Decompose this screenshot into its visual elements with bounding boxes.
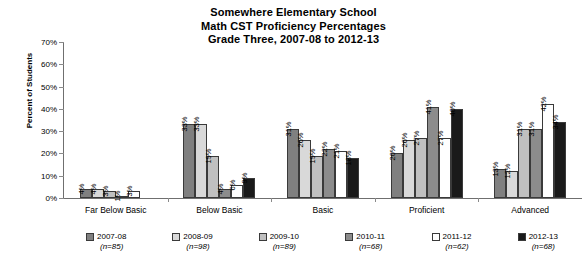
legend-label: 2007-08 xyxy=(97,232,126,242)
bar-slot: 31% xyxy=(518,42,530,198)
bar-slot xyxy=(140,42,152,198)
bar-slot: 4% xyxy=(219,42,231,198)
bar[interactable]: 27% xyxy=(415,138,427,198)
bar-slot: 22% xyxy=(323,42,335,198)
bar[interactable]: 12% xyxy=(506,171,518,198)
legend-sample-size: (n=85) xyxy=(97,242,126,252)
x-axis-tick xyxy=(375,198,376,202)
bar[interactable]: 40% xyxy=(451,109,463,198)
legend-label: 2009-10 xyxy=(270,232,299,242)
chart-title: Somewhere Elementary School Math CST Pro… xyxy=(0,6,587,47)
bar[interactable]: 9% xyxy=(243,178,255,198)
bar[interactable]: 27% xyxy=(439,138,451,198)
bar-slot: 19% xyxy=(207,42,219,198)
legend-label: 2008-09 xyxy=(183,232,212,242)
bar[interactable]: 31% xyxy=(530,129,542,198)
bar-value-label: 26% xyxy=(297,133,305,148)
bar-slot: 41% xyxy=(427,42,439,198)
bar-slot: 3% xyxy=(104,42,116,198)
y-axis-tick-label: 40% xyxy=(41,104,57,113)
bar[interactable]: 4% xyxy=(219,189,231,198)
bar-slot: 1% xyxy=(116,42,128,198)
bar-slot: 4% xyxy=(92,42,104,198)
bar-value-label: 4% xyxy=(78,184,86,195)
y-axis-label: Percent of Students xyxy=(25,16,34,166)
legend-sample-size: (n=68) xyxy=(356,242,385,252)
bar-slot: 31% xyxy=(287,42,299,198)
bar[interactable]: 18% xyxy=(347,158,359,198)
bar-slot: 4% xyxy=(80,42,92,198)
bar-value-label: 6% xyxy=(229,179,237,190)
legend-label: 2011-12 xyxy=(443,232,472,242)
bar-value-label: 42% xyxy=(540,97,548,112)
bar-slot: 33% xyxy=(195,42,207,198)
plot-area: 0%10%20%30%40%50%60%70% 4%4%3%1%3%Far Be… xyxy=(63,42,582,199)
legend-sample-size: (n=62) xyxy=(443,242,472,252)
bar-group: 33%33%19%4%6%9%Below Basic xyxy=(168,42,272,198)
bars-layer: 4%4%3%1%3%Far Below Basic33%33%19%4%6%9%… xyxy=(64,42,582,198)
bar-value-label: 20% xyxy=(389,146,397,161)
y-axis-tick-label: 70% xyxy=(41,38,57,47)
legend-item[interactable]: 2007-08(n=85) xyxy=(63,232,149,252)
bar[interactable]: 41% xyxy=(427,107,439,198)
legend-swatch xyxy=(172,233,180,241)
x-axis-category-label: Below Basic xyxy=(168,205,272,215)
bar-group: 13%12%31%31%42%34%Advanced xyxy=(478,42,582,198)
bar-value-label: 27% xyxy=(413,130,421,145)
x-axis-tick xyxy=(271,198,272,202)
legend-item[interactable]: 2011-12(n=62) xyxy=(408,232,494,252)
legend-sample-size: (n=89) xyxy=(270,242,299,252)
legend-swatch xyxy=(432,233,440,241)
x-axis-category-label: Proficient xyxy=(375,205,479,215)
bar-slot: 12% xyxy=(506,42,518,198)
x-axis-category-label: Advanced xyxy=(478,205,582,215)
y-axis-tick-label: 20% xyxy=(41,149,57,158)
x-axis-tick xyxy=(478,198,479,202)
y-axis-tick-label: 30% xyxy=(41,127,57,136)
bar[interactable]: 33% xyxy=(183,124,195,198)
bar-value-label: 34% xyxy=(552,115,560,130)
bar-value-label: 1% xyxy=(114,190,122,201)
bar[interactable]: 19% xyxy=(311,156,323,198)
legend-swatch xyxy=(518,233,526,241)
legend-swatch xyxy=(86,233,94,241)
legend-swatch xyxy=(345,233,353,241)
bar-value-label: 12% xyxy=(504,164,512,179)
bar-value-label: 22% xyxy=(321,141,329,156)
bar-value-label: 4% xyxy=(90,184,98,195)
bar-value-label: 19% xyxy=(309,148,317,163)
bar-group: 31%26%19%22%21%18%Basic xyxy=(271,42,375,198)
legend-item[interactable]: 2012-13(n=68) xyxy=(495,232,581,252)
bar-value-label: 4% xyxy=(217,184,225,195)
bar-group: 4%4%3%1%3%Far Below Basic xyxy=(64,42,168,198)
legend-swatch xyxy=(259,233,267,241)
bar[interactable]: 20% xyxy=(391,153,403,198)
chart-legend: 2007-08(n=85)2008-09(n=98)2009-10(n=89)2… xyxy=(63,232,581,252)
chart-title-line-1: Somewhere Elementary School xyxy=(0,6,587,20)
legend-item[interactable]: 2009-10(n=89) xyxy=(236,232,322,252)
bar-value-label: 3% xyxy=(126,186,134,197)
bar-value-label: 27% xyxy=(437,130,445,145)
x-axis-tick xyxy=(168,198,169,202)
chart-title-line-2: Math CST Proficiency Percentages xyxy=(0,20,587,34)
bar[interactable]: 31% xyxy=(518,129,530,198)
bar-value-label: 13% xyxy=(492,162,500,177)
legend-item[interactable]: 2010-11(n=68) xyxy=(322,232,408,252)
bar[interactable]: 26% xyxy=(403,140,415,198)
bar-slot: 18% xyxy=(347,42,359,198)
bar[interactable]: 3% xyxy=(128,191,140,198)
bar-value-label: 18% xyxy=(345,150,353,165)
y-axis-tick-label: 10% xyxy=(41,171,57,180)
x-axis-category-label: Basic xyxy=(271,205,375,215)
bar[interactable]: 34% xyxy=(554,122,566,198)
bar-slot: 27% xyxy=(415,42,427,198)
bar-value-label: 9% xyxy=(241,173,249,184)
bar-value-label: 41% xyxy=(425,99,433,114)
legend-item[interactable]: 2008-09(n=98) xyxy=(149,232,235,252)
legend-sample-size: (n=68) xyxy=(529,242,558,252)
y-axis-tick-label: 60% xyxy=(41,60,57,69)
bar-slot: 19% xyxy=(311,42,323,198)
bar-slot: 9% xyxy=(243,42,255,198)
bar[interactable]: 6% xyxy=(231,185,243,198)
bar-value-label: 21% xyxy=(333,144,341,159)
